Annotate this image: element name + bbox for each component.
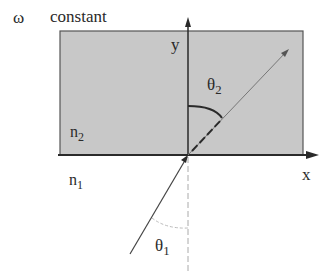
n1-label: n1 [69, 172, 83, 191]
theta1-label: θ1 [155, 237, 170, 258]
theta1-label-base: θ [155, 236, 163, 255]
omega-caption: constant [50, 8, 107, 25]
medium-n2-region [60, 31, 303, 155]
n2-label: n2 [70, 124, 84, 143]
theta2-label-base: θ [207, 75, 215, 94]
y-axis-arrowhead [185, 17, 191, 27]
n2-label-sub: 2 [78, 130, 84, 144]
y-axis-label: y [171, 36, 180, 53]
n1-label-sub: 1 [77, 178, 83, 192]
incident-ray-arrowhead [181, 155, 188, 163]
x-axis-label: x [302, 166, 311, 183]
x-axis-arrowhead [306, 151, 319, 159]
omega-symbol: ω [13, 9, 24, 26]
theta2-label: θ2 [207, 76, 222, 97]
theta2-label-sub: 2 [215, 83, 221, 97]
theta1-arc [152, 218, 188, 228]
n1-label-base: n [69, 171, 77, 188]
theta1-label-sub: 1 [163, 244, 169, 258]
refraction-diagram: ω constant y x n2 n1 θ2 θ1 [0, 0, 334, 279]
n2-label-base: n [70, 123, 78, 140]
